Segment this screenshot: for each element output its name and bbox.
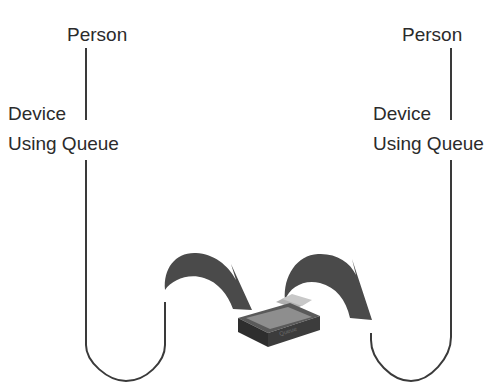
left-u-path xyxy=(86,160,165,381)
right-u-path xyxy=(371,160,451,381)
curved-arrow-into-queue-icon xyxy=(165,253,252,310)
right-station-lines xyxy=(371,48,451,381)
left-station-lines xyxy=(86,48,165,381)
card-file-box-icon: Queue xyxy=(238,294,320,347)
diagram-graphics: Queue xyxy=(0,0,502,383)
